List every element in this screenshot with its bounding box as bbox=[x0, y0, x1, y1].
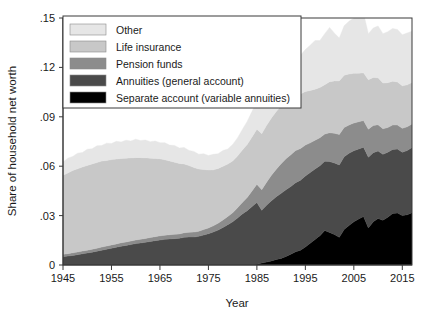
legend-label: Separate account (variable annuities) bbox=[116, 92, 290, 104]
x-tick-label: 1985 bbox=[245, 272, 269, 284]
y-axis-title: Share of household net worth bbox=[6, 66, 18, 216]
x-tick-label: 1945 bbox=[51, 272, 75, 284]
x-tick-label: 2005 bbox=[342, 272, 366, 284]
legend-swatch bbox=[70, 41, 106, 52]
y-tick-label: 0 bbox=[49, 259, 55, 271]
x-tick-label: 2015 bbox=[390, 272, 414, 284]
legend-label: Other bbox=[116, 24, 143, 36]
legend: OtherLife insurancePension fundsAnnuitie… bbox=[63, 16, 301, 108]
legend-swatch bbox=[70, 75, 106, 86]
x-tick-label: 1975 bbox=[196, 272, 220, 284]
y-tick-label: .15 bbox=[40, 12, 55, 24]
legend-label: Annuities (general account) bbox=[116, 75, 244, 87]
y-tick-label: .12 bbox=[40, 61, 55, 73]
x-tick-label: 1965 bbox=[148, 272, 172, 284]
legend-label: Pension funds bbox=[116, 58, 183, 70]
legend-swatch bbox=[70, 24, 106, 35]
y-tick-label: .06 bbox=[40, 160, 55, 172]
legend-label: Life insurance bbox=[116, 41, 182, 53]
legend-swatch bbox=[70, 58, 106, 69]
stacked-area-chart: 0.03.06.09.12.15 19451955196519751985199… bbox=[0, 0, 425, 315]
x-axis-title: Year bbox=[225, 297, 248, 309]
legend-swatch bbox=[70, 92, 106, 103]
x-tick-label: 1955 bbox=[99, 272, 123, 284]
y-tick-label: .03 bbox=[40, 210, 55, 222]
x-tick-label: 1995 bbox=[293, 272, 317, 284]
y-tick-label: .09 bbox=[40, 111, 55, 123]
